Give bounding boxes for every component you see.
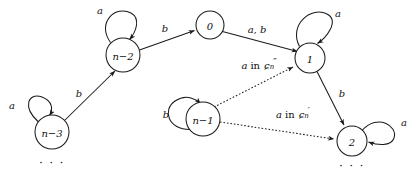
node-label: 0 <box>207 21 214 32</box>
diagram-canvas: n−2 0 1 n−3 n−1 2 a a a b a b a, b <box>0 0 420 175</box>
dashed-edge-n-1-to-2 <box>220 122 334 139</box>
self-loop-1 <box>296 12 332 46</box>
dashed-edge-n-1-to-1 <box>214 67 293 107</box>
automaton-diagram: n−2 0 1 n−3 n−1 2 a a a b a b a, b <box>0 0 420 175</box>
dashed-edge-label-n-1-to-1: ainɕn″ <box>241 57 277 71</box>
dashed-label-letter: a <box>276 109 282 120</box>
edge-label-1-to-2: b <box>339 88 345 99</box>
node-0[interactable]: 0 <box>196 11 224 39</box>
node-label: n−3 <box>41 128 62 139</box>
node-n-1[interactable]: n−1 <box>186 102 220 136</box>
self-loop-label-1: a <box>335 8 341 19</box>
dashed-label-prime: ″ <box>273 57 277 67</box>
dashed-label-word: in <box>285 109 295 120</box>
edge-label-n-2-to-0: b <box>162 23 168 34</box>
edge-label-0-to-1: a, b <box>248 24 267 35</box>
self-loop-label-2: a <box>401 117 407 128</box>
edge-0-to-1 <box>223 32 298 52</box>
node-n-3[interactable]: n−3 <box>35 115 69 149</box>
node-1[interactable]: 1 <box>295 43 325 73</box>
self-loop-label-n-3: a <box>9 100 15 111</box>
node-label: 2 <box>348 137 355 148</box>
self-loop-label-n-1: b <box>163 109 169 120</box>
self-loop-label-n-2: a <box>97 5 103 16</box>
dashed-label-word: in <box>250 60 260 71</box>
node-label: 1 <box>307 54 313 65</box>
node-label: n−2 <box>112 51 133 62</box>
dashed-label-letter: a <box>241 60 247 71</box>
dashed-label-prime: ′ <box>308 106 310 116</box>
edge-n-3-to-n-2 <box>65 71 115 120</box>
ellipsis-right: · · · <box>339 160 364 173</box>
node-n-2[interactable]: n−2 <box>106 38 140 72</box>
node-label: n−1 <box>192 115 213 126</box>
dashed-edge-label-n-1-to-2: ainɕn′ <box>276 106 310 120</box>
edge-label-n-3-to-n-2: b <box>76 88 82 99</box>
node-2[interactable]: 2 <box>337 126 367 156</box>
ellipsis-left: · · · <box>39 157 64 170</box>
